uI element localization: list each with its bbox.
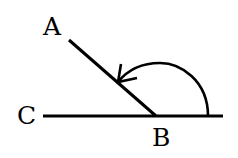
angle-diagram: A C B [0,0,238,158]
label-c: C [17,103,36,128]
angle-arc [118,63,208,116]
label-a: A [43,14,61,39]
diagram-drawing [0,0,238,158]
ray-ba [69,40,156,116]
label-b: B [152,125,170,150]
